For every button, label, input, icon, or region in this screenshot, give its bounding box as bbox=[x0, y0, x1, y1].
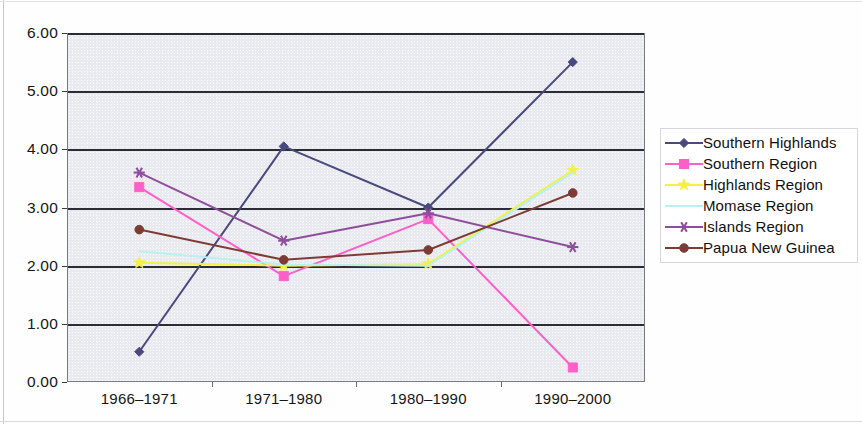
data-point bbox=[424, 246, 433, 255]
legend-marker-shape bbox=[680, 243, 689, 252]
legend-marker-square-icon bbox=[675, 155, 693, 173]
legend-item-highlands-region[interactable]: Highlands Region bbox=[665, 174, 853, 195]
legend-marker-star-icon bbox=[675, 176, 693, 194]
legend-item-southern-highlands[interactable]: Southern Highlands bbox=[665, 132, 853, 153]
legend-marker-asterisk-icon bbox=[675, 218, 693, 236]
legend-item-southern-region[interactable]: Southern Region bbox=[665, 153, 853, 174]
legend-key-diamond-icon bbox=[665, 134, 703, 152]
legend-key-none-icon bbox=[665, 197, 703, 215]
chart-page: 0.001.002.003.004.005.006.00 1966–197119… bbox=[0, 0, 862, 424]
legend-marker-diamond-icon bbox=[675, 134, 693, 152]
legend-key-star-icon bbox=[665, 176, 703, 194]
data-point bbox=[568, 189, 577, 198]
legend-label: Highlands Region bbox=[703, 176, 823, 194]
legend-label: Southern Highlands bbox=[703, 134, 837, 152]
data-point bbox=[568, 363, 577, 372]
legend-label: Southern Region bbox=[703, 155, 817, 173]
series-southern-highlands bbox=[135, 57, 578, 356]
data-point bbox=[279, 272, 288, 281]
data-point bbox=[133, 257, 145, 268]
legend-line-swatch bbox=[665, 205, 703, 207]
legend-key-square-icon bbox=[665, 155, 703, 173]
legend-marker-shape bbox=[678, 222, 689, 232]
series-line bbox=[139, 173, 573, 247]
data-point bbox=[134, 168, 145, 178]
data-point bbox=[278, 236, 289, 246]
data-point bbox=[135, 183, 144, 192]
data-point bbox=[567, 242, 578, 252]
legend-marker-circle-icon bbox=[675, 239, 693, 257]
data-point bbox=[279, 256, 288, 265]
legend-item-papua-new-guinea[interactable]: Papua New Guinea bbox=[665, 237, 853, 258]
legend-label: Papua New Guinea bbox=[703, 239, 835, 257]
data-point bbox=[135, 225, 144, 234]
legend-label: Islands Region bbox=[703, 218, 804, 236]
legend-marker-shape bbox=[680, 159, 689, 168]
legend-marker-shape bbox=[679, 138, 688, 147]
data-point bbox=[424, 215, 433, 224]
legend-key-circle-icon bbox=[665, 239, 703, 257]
legend-item-islands-region[interactable]: Islands Region bbox=[665, 216, 853, 237]
legend-label: Momase Region bbox=[703, 197, 814, 215]
chart-legend: Southern HighlandsSouthern RegionHighlan… bbox=[660, 128, 858, 263]
legend-marker-shape bbox=[678, 178, 690, 189]
series-line bbox=[139, 62, 573, 352]
legend-key-asterisk-icon bbox=[665, 218, 703, 236]
legend-item-momase-region[interactable]: Momase Region bbox=[665, 195, 853, 216]
